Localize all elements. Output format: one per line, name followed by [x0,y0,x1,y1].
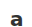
canvas: a [0,0,32,27]
letter-glyph: a [10,9,24,27]
